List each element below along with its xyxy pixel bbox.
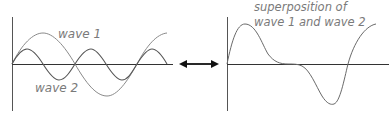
wave-1-label: wave 1: [58, 28, 101, 40]
superposition-title-line-2: wave 1 and wave 2: [254, 17, 366, 29]
wave-2-label: wave 2: [35, 82, 78, 94]
superposition-title-line-1: superposition of: [254, 2, 347, 14]
right-panel: [227, 17, 389, 111]
double-arrow-icon: [179, 60, 219, 68]
